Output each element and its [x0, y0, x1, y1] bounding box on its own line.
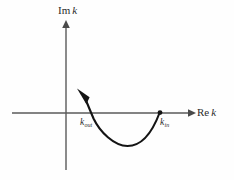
- figure-complex-k-plane: Imk Rek kout kin: [0, 0, 234, 180]
- k-out-label-base: k: [80, 117, 84, 127]
- k-in-label-subscript: in: [165, 122, 170, 128]
- k-out-label-subscript: out: [85, 122, 93, 128]
- k-in-label-base: k: [160, 117, 164, 127]
- contour-curve: [86, 101, 160, 147]
- real-axis-label-symbol: k: [209, 106, 216, 118]
- real-axis-arrowhead: [188, 109, 196, 117]
- imaginary-axis-label: Imk: [58, 5, 77, 16]
- figure-canvas: [0, 0, 234, 180]
- k-in-dot: [158, 110, 163, 115]
- imaginary-axis-arrowhead: [62, 20, 70, 28]
- imaginary-axis-label-symbol: k: [70, 4, 77, 16]
- real-axis-label-prefix: Re: [197, 106, 209, 118]
- k-out-label: kout: [80, 118, 92, 128]
- real-axis-label: Rek: [197, 107, 216, 118]
- k-in-label: kin: [160, 118, 169, 128]
- imaginary-axis-label-prefix: Im: [58, 4, 70, 16]
- contour-arrowhead: [77, 89, 90, 105]
